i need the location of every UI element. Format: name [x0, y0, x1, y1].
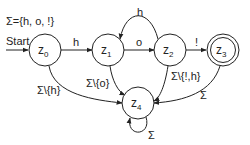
edge-z1-z4	[110, 66, 125, 95]
edge-label-z2-z3: !	[195, 36, 198, 48]
alphabet-label: Σ={h, o, !}	[6, 15, 54, 27]
edge-label-z0-z1: h	[73, 36, 79, 48]
edge-label-z2-z1: h	[137, 6, 143, 18]
start-label: Start	[6, 35, 29, 47]
edge-label-z0-z4: Σ\{h}	[37, 84, 61, 96]
edge-label-z3-z4: Σ	[200, 89, 207, 101]
edge-label-z2-z4: Σ\{!,h}	[171, 70, 201, 82]
edge-label-z1-z2: o	[136, 36, 142, 48]
edge-z2-z4	[154, 66, 168, 101]
edge-label-z4-self: Σ	[148, 129, 155, 141]
automaton-diagram: Σ={h, o, !} Start h o h ! Σ\{h} Σ\{o} Σ\…	[0, 0, 250, 145]
edge-label-z1-z4: Σ\{o}	[86, 77, 110, 89]
